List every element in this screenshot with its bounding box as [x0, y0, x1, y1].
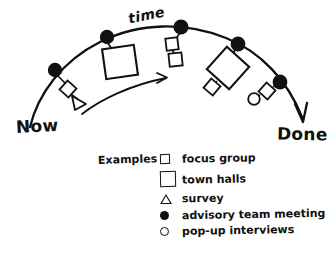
node-advisory-1 — [48, 63, 62, 77]
legend-heading: Examples : — [98, 152, 166, 167]
node-popup-interviews-1 — [248, 93, 260, 105]
node-focus-group-2 — [165, 37, 178, 50]
open-circle-icon — [160, 227, 169, 236]
node-focus-group-4 — [204, 79, 221, 96]
filled-circle-icon — [160, 211, 169, 220]
inner-progress-arrow — [82, 78, 166, 114]
diagram-canvas: Now Done time Examples : focus group tow… — [0, 0, 335, 259]
legend-item-label: focus group — [182, 151, 256, 165]
legend-item-label: pop-up interviews — [182, 223, 294, 238]
node-advisory-5 — [273, 75, 288, 90]
legend-item-label: advisory team meeting — [182, 207, 326, 222]
timeline-start-label: Now — [16, 115, 60, 137]
node-advisory-3 — [173, 19, 188, 34]
node-focus-group-3 — [168, 52, 182, 66]
timeline-end-label: Done — [277, 124, 328, 145]
legend-item-label: survey — [182, 192, 224, 206]
node-focus-group-5 — [259, 83, 276, 100]
node-focus-group-1 — [60, 81, 77, 98]
legend-item-label: town halls — [182, 172, 246, 186]
small-square-icon — [160, 154, 170, 164]
node-survey-1 — [72, 96, 86, 110]
triangle-icon — [160, 194, 172, 204]
node-advisory-4 — [231, 37, 246, 52]
node-town-halls-1 — [102, 45, 138, 79]
legend-item-survey: survey — [160, 192, 172, 208]
node-advisory-2 — [100, 30, 114, 44]
large-square-icon — [160, 171, 176, 187]
